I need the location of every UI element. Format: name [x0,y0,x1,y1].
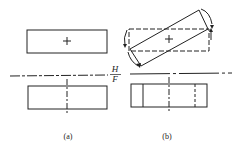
caption-a: (a) [64,132,73,141]
caption-b: (b) [162,132,172,141]
rotation-arrow-left [124,30,127,45]
arrowhead-1 [210,25,214,29]
plane-label-f: F [111,74,118,84]
plane-label-h: H [111,64,119,74]
rotation-arrow-top-right [201,9,212,24]
projection-diagram: H F (a) (b) [0,0,240,149]
fold-line-right [130,73,232,74]
arrowhead-3 [123,44,127,48]
view-a-center-mark [63,37,71,45]
view-b-center-mark [165,35,173,43]
arrowhead-2 [209,28,213,32]
fold-line-left [10,75,108,76]
